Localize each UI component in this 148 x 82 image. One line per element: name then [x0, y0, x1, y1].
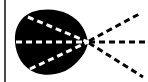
figure-canvas: [0, 0, 148, 82]
diagram-svg: [0, 0, 148, 82]
left-rule: [4, 0, 6, 82]
